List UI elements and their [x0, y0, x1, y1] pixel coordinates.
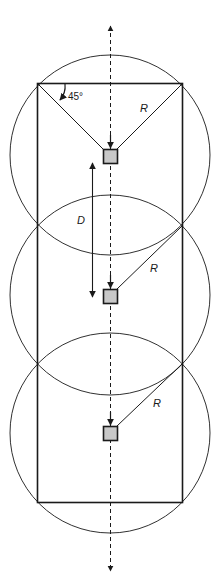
radius-line-middle	[117, 226, 182, 289]
radius-line-top-right	[117, 84, 182, 149]
device-square-top	[104, 150, 118, 164]
device-square-bottom	[104, 427, 118, 441]
angle-arc-45	[60, 84, 65, 100]
device-square-middle	[104, 290, 118, 304]
spacing-label-d: D	[77, 214, 85, 226]
diagram-canvas: 45° R R R D	[0, 0, 222, 585]
devices	[104, 150, 118, 441]
radius-label-top: R	[140, 102, 148, 114]
radius-line-bottom	[117, 364, 182, 426]
radius-label-bottom: R	[153, 397, 161, 409]
radius-label-middle: R	[150, 262, 158, 274]
angle-label: 45°	[68, 91, 83, 102]
